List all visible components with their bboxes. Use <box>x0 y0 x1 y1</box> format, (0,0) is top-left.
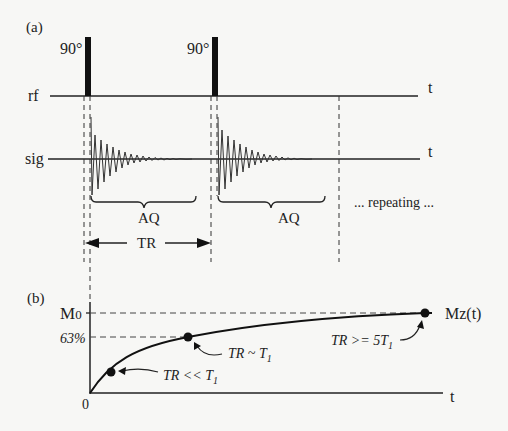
rf-pulse-1 <box>85 37 91 96</box>
pulse-label-2: 90° <box>187 40 209 57</box>
annotation-tr-ge-5t1: TR >= 5T1 <box>331 333 393 351</box>
percent-63-label: 63% <box>60 331 86 346</box>
annotation-arrow-1 <box>122 369 158 372</box>
fid-signal-1 <box>91 117 192 195</box>
aq-label-1: AQ <box>138 210 160 226</box>
rf-pulse-2 <box>212 37 218 96</box>
annotation-tr-approx-t1: TR ~ T1 <box>228 346 272 364</box>
annotation-tr-much-less-t1: TR << T1 <box>163 368 218 386</box>
aq-brace-1 <box>91 196 196 208</box>
annotation-arrow-3 <box>400 325 420 340</box>
pulse-label-1: 90° <box>60 40 82 57</box>
aq-brace-2 <box>218 196 325 208</box>
panel-b-label: (b) <box>27 290 45 307</box>
mz-curve-label: Mz(t) <box>445 305 481 323</box>
x-axis-label: t <box>450 388 455 405</box>
sig-label: sig <box>25 150 44 168</box>
tr-label: TR <box>137 235 156 251</box>
tr-arrowhead-left <box>85 238 99 248</box>
aq-label-2: AQ <box>278 210 300 226</box>
mri-pulse-sequence-diagram: (a) rf t 90° 90° sig t AQ AQ TR ... repe… <box>0 0 508 431</box>
tr-arrowhead-right <box>197 238 211 248</box>
m0-label: M0 <box>60 304 82 323</box>
point-tr-much-less-t1 <box>107 368 116 377</box>
point-tr-ge-5t1 <box>421 309 430 318</box>
repeating-label: ... repeating ... <box>354 195 434 210</box>
annotation-arrowhead-3 <box>417 320 424 329</box>
sig-time-label: t <box>428 143 433 160</box>
rf-time-label: t <box>428 79 433 96</box>
panel-a-label: (a) <box>26 19 43 36</box>
origin-label: 0 <box>82 397 89 412</box>
rf-label: rf <box>28 87 39 104</box>
annotation-arrow-2 <box>197 346 222 355</box>
point-tr-approx-t1 <box>184 333 193 342</box>
fid-signal-2 <box>218 117 312 195</box>
annotation-arrowhead-1 <box>118 367 126 375</box>
